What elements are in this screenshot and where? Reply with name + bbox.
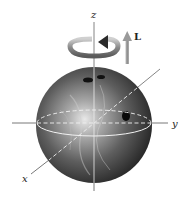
- x-axis-label: x: [22, 173, 28, 184]
- y-axis-label: y: [171, 118, 178, 129]
- angular-momentum-arrow-icon: [123, 31, 133, 64]
- diagram-canvas: z y x L: [0, 0, 187, 197]
- finger-hole: [97, 75, 105, 79]
- x-axis-front: [31, 160, 49, 174]
- angular-momentum-label: L: [134, 31, 141, 42]
- z-axis-label: z: [90, 9, 97, 20]
- finger-hole: [83, 78, 93, 83]
